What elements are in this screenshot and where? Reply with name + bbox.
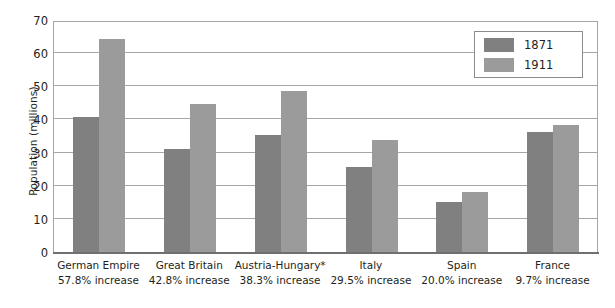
legend-label-1871: 1871 bbox=[524, 37, 553, 53]
bar bbox=[372, 140, 398, 253]
x-axis-label: Great Britain42.8% increase bbox=[144, 258, 235, 288]
x-axis-line bbox=[53, 252, 599, 254]
y-axis-tick-label: 40 bbox=[2, 113, 48, 127]
x-axis-label-country: France bbox=[507, 258, 598, 273]
bar bbox=[190, 104, 216, 253]
x-axis-label-increase: 9.7% increase bbox=[507, 273, 598, 288]
bar bbox=[281, 91, 307, 253]
x-axis-label-country: German Empire bbox=[53, 258, 144, 273]
y-axis-tick-label: 60 bbox=[2, 47, 48, 61]
x-axis-label: Spain20.0% increase bbox=[416, 258, 507, 288]
bar-group bbox=[53, 21, 144, 253]
legend: 1871 1911 bbox=[474, 31, 583, 78]
bar bbox=[255, 135, 281, 253]
x-axis-category-labels: German Empire57.8% increaseGreat Britain… bbox=[53, 258, 598, 304]
x-axis-label-increase: 38.3% increase bbox=[235, 273, 326, 288]
bar bbox=[527, 132, 553, 253]
x-axis-label: Austria-Hungary*38.3% increase bbox=[235, 258, 326, 288]
bar bbox=[346, 167, 372, 253]
bar-group bbox=[144, 21, 235, 253]
x-axis-label: Italy29.5% increase bbox=[326, 258, 417, 288]
y-axis-tick-label: 70 bbox=[2, 14, 48, 28]
x-axis-label-country: Austria-Hungary* bbox=[235, 258, 326, 273]
legend-swatch-1911 bbox=[484, 58, 514, 72]
x-axis-label-increase: 20.0% increase bbox=[416, 273, 507, 288]
bar bbox=[462, 192, 488, 253]
y-axis-tick-label: 50 bbox=[2, 80, 48, 94]
x-axis-label: German Empire57.8% increase bbox=[53, 258, 144, 288]
y-axis-tick-label: 20 bbox=[2, 180, 48, 194]
x-axis-label-increase: 29.5% increase bbox=[326, 273, 417, 288]
x-axis-label: France9.7% increase bbox=[507, 258, 598, 288]
y-axis-tick-labels: 010203040506070 bbox=[0, 0, 48, 308]
x-axis-label-country: Italy bbox=[326, 258, 417, 273]
legend-label-1911: 1911 bbox=[524, 57, 553, 73]
y-axis-tick-label: 10 bbox=[2, 213, 48, 227]
bar bbox=[164, 149, 190, 253]
population-bar-chart: Population (millions) 010203040506070 Ge… bbox=[0, 0, 615, 308]
bar bbox=[99, 39, 125, 253]
bar-group bbox=[235, 21, 326, 253]
y-axis-tick-label: 30 bbox=[2, 147, 48, 161]
legend-swatch-1871 bbox=[484, 38, 514, 52]
x-axis-label-country: Great Britain bbox=[144, 258, 235, 273]
bar-group bbox=[326, 21, 417, 253]
x-axis-label-increase: 42.8% increase bbox=[144, 273, 235, 288]
bar bbox=[436, 202, 462, 253]
bar bbox=[553, 125, 579, 253]
x-axis-label-country: Spain bbox=[416, 258, 507, 273]
x-axis-label-increase: 57.8% increase bbox=[53, 273, 144, 288]
bar bbox=[73, 117, 99, 253]
y-axis-tick-label: 0 bbox=[2, 246, 48, 260]
